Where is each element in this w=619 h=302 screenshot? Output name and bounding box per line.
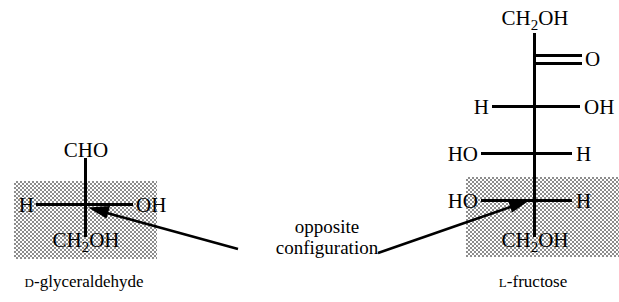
atom-label-ch2oh-top: CH2OH bbox=[501, 8, 568, 35]
atom-label-oh-c3: OH bbox=[584, 97, 614, 118]
bond-vertical-c4-c5 bbox=[533, 152, 536, 201]
caption-prefix-l: L bbox=[499, 275, 507, 290]
bond-vertical-c2-c3 bbox=[533, 58, 536, 107]
annotation-line-1: opposite bbox=[276, 216, 378, 237]
bond-carbonyl-double-upper bbox=[534, 54, 582, 57]
bond-horizontal-c3 bbox=[492, 105, 580, 108]
bond-carbonyl-double-lower bbox=[534, 62, 582, 65]
atom-label-ho-c4: HO bbox=[448, 144, 478, 165]
annotation-line-2: configuration bbox=[276, 237, 378, 258]
caption-l-fructose: L-fructose bbox=[499, 272, 568, 292]
atom-label-h-c3: H bbox=[474, 97, 489, 118]
bond-horizontal-c5 bbox=[481, 199, 572, 202]
bond-horizontal-c4 bbox=[481, 152, 572, 155]
atom-label-h-c4: H bbox=[576, 144, 591, 165]
atom-label-ch2oh-bottom: CH2OH bbox=[501, 230, 568, 257]
atom-label-o-carbonyl: O bbox=[585, 49, 600, 70]
annotation-opposite-configuration: opposite configuration bbox=[276, 216, 378, 258]
atom-label-h-c5: H bbox=[576, 191, 591, 212]
caption-suffix-fructose: -fructose bbox=[507, 272, 567, 291]
bond-vertical-c3-c4 bbox=[533, 105, 536, 154]
diagram-canvas: CHO H OH CH2OH D-glyceraldehyde CH2OH O … bbox=[0, 0, 619, 302]
atom-label-ho-c5: HO bbox=[448, 191, 478, 212]
